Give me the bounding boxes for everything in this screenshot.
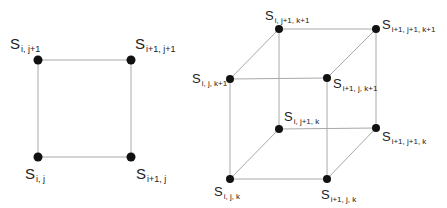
- node-s-i1-j: [127, 153, 136, 162]
- edge-3d: [327, 29, 376, 78]
- edge-3d: [230, 29, 279, 79]
- node-s-i1-j-k1: [323, 74, 331, 82]
- edge-3d: [230, 129, 279, 179]
- node-s-i-j1: [34, 56, 43, 65]
- node-s-i-j1-k1: [275, 25, 283, 33]
- label-s-i1-j: Si+1, j: [136, 166, 166, 182]
- label-s-i1-j1-k1: Si+1, j+1, k+1: [382, 16, 435, 32]
- node-s-i1-j1-k1: [372, 25, 380, 33]
- label-s-i-j1-k1: Si, j+1, k+1: [265, 7, 309, 23]
- diagram-canvas: [0, 0, 447, 208]
- label-s-i-j1-k: Si, j+1, k: [284, 108, 319, 124]
- node-s-i1-j-k: [323, 175, 331, 183]
- label-s-i1-j1: Si+1, j+1: [135, 36, 176, 52]
- edge-3d: [327, 128, 376, 179]
- node-s-i-j-k: [226, 175, 234, 183]
- node-s-i1-j1: [127, 56, 136, 65]
- label-s-i-j: Si, j: [25, 166, 45, 182]
- node-s-i-j: [34, 153, 43, 162]
- label-s-i1-j-k1: Si+1, j, k+1: [333, 75, 377, 91]
- label-s-i1-j1-k: Si+1, j+1, k: [382, 128, 426, 144]
- label-s-i-j1: Si, j+1: [10, 36, 40, 52]
- label-s-i-j-k: Si, j, k: [214, 183, 240, 199]
- label-s-i1-j-k: Si+1, j, k: [321, 186, 356, 202]
- node-s-i1-j1-k: [372, 124, 380, 132]
- label-s-i-j-k1: Si, j, k+1: [192, 70, 227, 86]
- node-s-i-j1-k: [275, 125, 283, 133]
